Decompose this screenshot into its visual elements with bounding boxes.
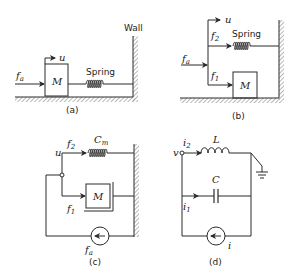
compliance-label: Cm — [94, 134, 109, 147]
spring-coil — [233, 42, 250, 50]
wall-hatch — [133, 36, 138, 102]
source-label: fa — [84, 244, 93, 257]
panel-d: v i2 L C i1 i (d) — [173, 134, 268, 267]
wall-hatch — [134, 144, 139, 237]
force-label: fa — [15, 70, 24, 83]
mass-label: M — [92, 191, 104, 202]
force-label: fa — [181, 53, 190, 66]
panel-b: fa u f2 Spring f1 M (b) — [180, 14, 284, 121]
caption-d: (d) — [209, 257, 222, 267]
capacitor-label: C — [212, 174, 220, 185]
f2-label: f2 — [66, 138, 76, 151]
velocity-label: u — [55, 147, 61, 158]
ground-hatch — [180, 98, 280, 103]
wall-label: Wall — [124, 23, 143, 33]
inductor-label: L — [212, 134, 220, 145]
f1-label: f1 — [210, 70, 219, 83]
spring-label: Spring — [86, 67, 115, 77]
velocity-label: u — [59, 52, 65, 63]
caption-c: (c) — [89, 257, 101, 267]
ground-lead — [251, 153, 262, 172]
wall-hatch — [279, 20, 284, 103]
velocity-label: u — [225, 14, 231, 25]
panel-c: u f2 Cm f1 M fa (c) — [46, 134, 139, 267]
caption-a: (a) — [66, 105, 79, 115]
mass-label: M — [51, 76, 63, 87]
f1-label: f1 — [66, 203, 75, 216]
node-terminal — [60, 173, 64, 177]
caption-b: (b) — [232, 111, 245, 121]
mechanical-electrical-analogy-figure: Wall M fa u Spring (a) fa u f2 Spring — [0, 0, 293, 278]
i2-label: i2 — [183, 137, 191, 150]
source-label: i — [228, 240, 231, 251]
inductor-coil — [201, 148, 229, 153]
spring-label: Spring — [232, 29, 261, 39]
mass-label: M — [239, 80, 251, 91]
panel-a: Wall M fa u Spring (a) — [15, 23, 143, 115]
compliance-coil — [88, 149, 107, 157]
voltage-label: v — [173, 147, 179, 158]
spring-coil — [86, 80, 103, 88]
ground-hatch — [15, 97, 135, 102]
voltage-terminal — [180, 151, 184, 155]
f2-label: f2 — [210, 30, 220, 43]
i1-label: i1 — [183, 201, 191, 214]
velocity-arrow — [45, 58, 55, 64]
